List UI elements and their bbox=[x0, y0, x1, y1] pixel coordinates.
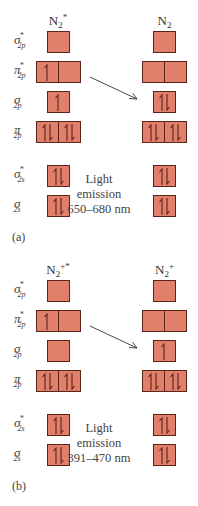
emission-text-line: 391–470 nm bbox=[59, 451, 139, 466]
light-emission-label: Lightemission650–680 nm bbox=[59, 172, 139, 217]
light-emission-label: Lightemission391–470 nm bbox=[59, 421, 139, 466]
panel-b: N2+*N2+σ*2pπ*2pσ2pπ2pσ*2sσ2sLightemissio… bbox=[0, 249, 198, 499]
emission-text-line: Light bbox=[59, 172, 139, 187]
panel-a: N2*N2σ*2pπ*2pσ2pπ2pσ*2sσ2sLightemission6… bbox=[0, 0, 198, 250]
panel-caption: (b) bbox=[12, 479, 26, 494]
emission-text-line: emission bbox=[59, 436, 139, 451]
panel-caption: (a) bbox=[12, 230, 25, 245]
emission-text-line: 650–680 nm bbox=[59, 202, 139, 217]
emission-text-line: emission bbox=[59, 187, 139, 202]
emission-text-line: Light bbox=[59, 421, 139, 436]
